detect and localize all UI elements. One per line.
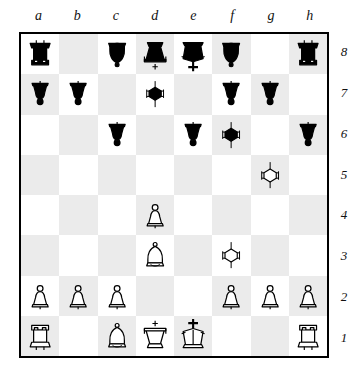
piece-white-bishop-icon[interactable]: [98, 316, 136, 356]
square-c7[interactable]: [98, 74, 136, 114]
piece-black-pawn-icon[interactable]: [98, 115, 136, 155]
piece-white-knight-icon[interactable]: [212, 235, 250, 275]
square-g5[interactable]: [251, 155, 289, 195]
square-c5[interactable]: [98, 155, 136, 195]
square-h8[interactable]: [289, 34, 327, 74]
square-b6[interactable]: [59, 115, 97, 155]
piece-white-knight-icon[interactable]: [251, 155, 289, 195]
square-e5[interactable]: [174, 155, 212, 195]
square-h6[interactable]: [289, 115, 327, 155]
piece-white-pawn-icon[interactable]: [59, 276, 97, 316]
file-label-e: e: [174, 4, 213, 28]
square-b3[interactable]: [59, 235, 97, 275]
square-d3[interactable]: [136, 235, 174, 275]
square-d7[interactable]: [136, 74, 174, 114]
square-f4[interactable]: [212, 195, 250, 235]
square-a3[interactable]: [21, 235, 59, 275]
square-c1[interactable]: [98, 316, 136, 356]
square-a6[interactable]: [21, 115, 59, 155]
piece-white-king-icon[interactable]: [174, 316, 212, 356]
square-d4[interactable]: [136, 195, 174, 235]
square-e1[interactable]: [174, 316, 212, 356]
piece-white-pawn-icon[interactable]: [251, 276, 289, 316]
square-g4[interactable]: [251, 195, 289, 235]
square-a8[interactable]: [21, 34, 59, 74]
piece-black-pawn-icon[interactable]: [212, 74, 250, 114]
piece-white-rook-icon[interactable]: [289, 316, 327, 356]
piece-white-pawn-icon[interactable]: [98, 276, 136, 316]
piece-black-queen-icon[interactable]: [136, 34, 174, 74]
piece-white-queen-icon[interactable]: [136, 316, 174, 356]
piece-black-pawn-icon[interactable]: [59, 74, 97, 114]
square-h3[interactable]: [289, 235, 327, 275]
piece-black-pawn-icon[interactable]: [251, 74, 289, 114]
square-h2[interactable]: [289, 276, 327, 316]
square-a2[interactable]: [21, 276, 59, 316]
piece-black-knight-icon[interactable]: [136, 74, 174, 114]
square-h1[interactable]: [289, 316, 327, 356]
piece-black-rook-icon[interactable]: [21, 34, 59, 74]
square-e8[interactable]: [174, 34, 212, 74]
square-g6[interactable]: [251, 115, 289, 155]
square-f3[interactable]: [212, 235, 250, 275]
piece-black-bishop-icon[interactable]: [212, 34, 250, 74]
piece-black-pawn-icon[interactable]: [289, 115, 327, 155]
square-e3[interactable]: [174, 235, 212, 275]
file-label-row: abcdefgh: [19, 4, 329, 28]
square-g8[interactable]: [251, 34, 289, 74]
file-label-b: b: [58, 4, 97, 28]
square-f2[interactable]: [212, 276, 250, 316]
square-e7[interactable]: [174, 74, 212, 114]
piece-black-knight-icon[interactable]: [212, 115, 250, 155]
piece-black-rook-icon[interactable]: [289, 34, 327, 74]
square-d6[interactable]: [136, 115, 174, 155]
square-d2[interactable]: [136, 276, 174, 316]
piece-black-bishop-icon[interactable]: [98, 34, 136, 74]
square-d1[interactable]: [136, 316, 174, 356]
square-f6[interactable]: [212, 115, 250, 155]
square-f7[interactable]: [212, 74, 250, 114]
square-b4[interactable]: [59, 195, 97, 235]
square-h7[interactable]: [289, 74, 327, 114]
square-c3[interactable]: [98, 235, 136, 275]
square-b5[interactable]: [59, 155, 97, 195]
piece-black-king-icon[interactable]: [174, 34, 212, 74]
square-c6[interactable]: [98, 115, 136, 155]
square-f8[interactable]: [212, 34, 250, 74]
piece-white-pawn-icon[interactable]: [136, 195, 174, 235]
square-e6[interactable]: [174, 115, 212, 155]
chess-board[interactable]: [19, 32, 329, 358]
piece-white-bishop-icon[interactable]: [136, 235, 174, 275]
square-d5[interactable]: [136, 155, 174, 195]
square-b8[interactable]: [59, 34, 97, 74]
square-g3[interactable]: [251, 235, 289, 275]
square-b1[interactable]: [59, 316, 97, 356]
square-f1[interactable]: [212, 316, 250, 356]
piece-black-pawn-icon[interactable]: [21, 74, 59, 114]
square-b2[interactable]: [59, 276, 97, 316]
square-g1[interactable]: [251, 316, 289, 356]
square-h5[interactable]: [289, 155, 327, 195]
file-label-g: g: [252, 4, 291, 28]
file-label-h: h: [290, 4, 329, 28]
square-c8[interactable]: [98, 34, 136, 74]
square-c4[interactable]: [98, 195, 136, 235]
square-g7[interactable]: [251, 74, 289, 114]
square-d8[interactable]: [136, 34, 174, 74]
square-e2[interactable]: [174, 276, 212, 316]
square-a4[interactable]: [21, 195, 59, 235]
square-c2[interactable]: [98, 276, 136, 316]
piece-white-rook-icon[interactable]: [21, 316, 59, 356]
square-b7[interactable]: [59, 74, 97, 114]
square-h4[interactable]: [289, 195, 327, 235]
piece-black-pawn-icon[interactable]: [174, 115, 212, 155]
square-a7[interactable]: [21, 74, 59, 114]
square-g2[interactable]: [251, 276, 289, 316]
piece-white-pawn-icon[interactable]: [21, 276, 59, 316]
square-a1[interactable]: [21, 316, 59, 356]
square-e4[interactable]: [174, 195, 212, 235]
square-a5[interactable]: [21, 155, 59, 195]
square-f5[interactable]: [212, 155, 250, 195]
piece-white-pawn-icon[interactable]: [289, 276, 327, 316]
piece-white-pawn-icon[interactable]: [212, 276, 250, 316]
